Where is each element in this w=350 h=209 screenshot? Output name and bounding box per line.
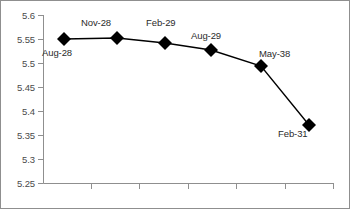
chart-container: 5.6 5.55 5.5 5.45 5.4 5.35 5.3 5.25 Aug-… [0,0,350,209]
y-axis-tick-label: 5.6 [1,10,35,21]
y-axis-tick-label: 5.3 [1,154,35,165]
y-axis-ticks [38,16,44,184]
y-axis-tick-label: 5.35 [1,130,35,141]
y-axis-tick-label: 5.45 [1,82,35,93]
data-point-marker [204,43,218,57]
data-point-label: May-38 [259,48,290,59]
data-point-label: Aug-29 [191,30,221,41]
data-point-label: Feb-31 [278,128,308,139]
y-axis-tick-label: 5.55 [1,34,35,45]
line-chart-plot [1,1,350,209]
data-point-marker [254,59,268,73]
data-point-label: Aug-28 [42,47,72,58]
data-point-marker [57,32,71,46]
y-axis-tick-label: 5.25 [1,178,35,189]
data-point-marker [110,31,124,45]
data-point-label: Nov-28 [81,17,111,28]
y-axis-tick-label: 5.5 [1,58,35,69]
x-axis-ticks [92,184,334,190]
data-point-label: Feb-29 [146,17,176,28]
y-axis-tick-label: 5.4 [1,106,35,117]
data-point-marker [158,36,172,50]
